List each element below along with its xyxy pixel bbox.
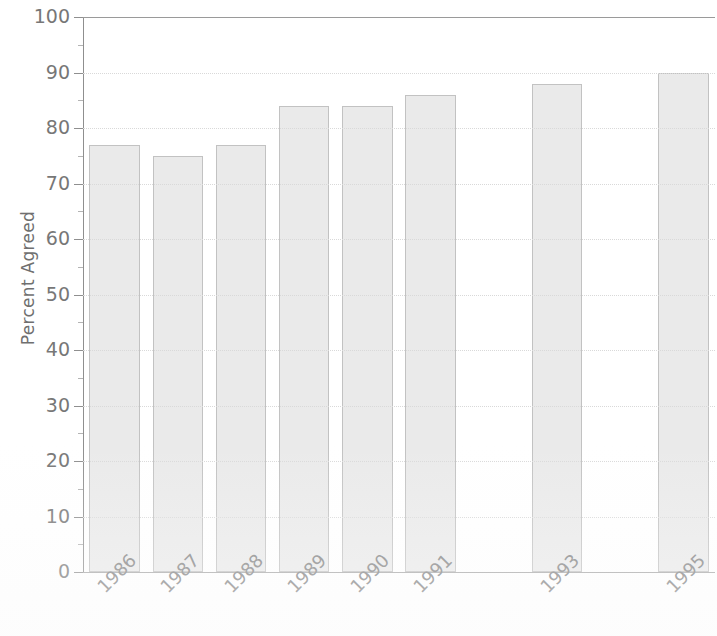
gridline-60 [83, 239, 715, 240]
bar-1986 [89, 145, 140, 572]
gridline-100 [83, 17, 715, 18]
y-axis-tick-labels: 0102030405060708090100 [24, 0, 70, 636]
y-tick-label-80: 80 [24, 118, 70, 137]
y-tick-label-100: 100 [24, 7, 70, 26]
y-tick-50 [74, 295, 83, 296]
bar-1988 [216, 145, 267, 572]
y-tick-90 [74, 73, 83, 74]
y-tick-minor-5 [78, 544, 83, 545]
y-tick-30 [74, 406, 83, 407]
y-tick-minor-75 [78, 156, 83, 157]
gridline-20 [83, 461, 715, 462]
y-tick-minor-55 [78, 267, 83, 268]
bar-1987 [153, 156, 204, 572]
gridline-40 [83, 350, 715, 351]
bar-1995 [658, 73, 709, 573]
y-tick-label-30: 30 [24, 396, 70, 415]
bar-1990 [342, 106, 393, 572]
y-tick-label-50: 50 [24, 285, 70, 304]
y-tick-80 [74, 128, 83, 129]
y-tick-label-20: 20 [24, 451, 70, 470]
y-tick-minor-35 [78, 378, 83, 379]
y-tick-100 [74, 17, 83, 18]
y-tick-label-60: 60 [24, 229, 70, 248]
y-tick-0 [74, 572, 83, 573]
y-tick-20 [74, 461, 83, 462]
bar-chart: Percent Agreed 0102030405060708090100 19… [0, 0, 717, 636]
y-tick-minor-65 [78, 211, 83, 212]
y-tick-minor-85 [78, 100, 83, 101]
y-tick-minor-15 [78, 489, 83, 490]
y-tick-label-40: 40 [24, 340, 70, 359]
gridline-30 [83, 406, 715, 407]
gridline-90 [83, 73, 715, 74]
y-tick-60 [74, 239, 83, 240]
y-tick-label-90: 90 [24, 63, 70, 82]
y-tick-label-10: 10 [24, 507, 70, 526]
bar-1993 [532, 84, 583, 572]
bar-1991 [405, 95, 456, 572]
y-tick-70 [74, 184, 83, 185]
y-tick-minor-25 [78, 433, 83, 434]
y-tick-minor-95 [78, 45, 83, 46]
gridline-10 [83, 517, 715, 518]
bar-1989 [279, 106, 330, 572]
y-tick-10 [74, 517, 83, 518]
y-tick-label-0: 0 [24, 562, 70, 581]
y-tick-minor-45 [78, 322, 83, 323]
y-tick-label-70: 70 [24, 174, 70, 193]
y-tick-40 [74, 350, 83, 351]
gridline-80 [83, 128, 715, 129]
plot-area [83, 17, 715, 572]
x-axis-tick-labels: 19861987198819891990199119931995 [83, 572, 715, 636]
gridline-70 [83, 184, 715, 185]
gridline-50 [83, 295, 715, 296]
